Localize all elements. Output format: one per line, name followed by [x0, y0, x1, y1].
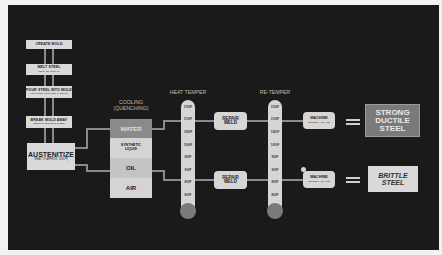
flow-upper-3 [86, 128, 110, 130]
re-temper-tick: 800F [268, 193, 282, 197]
result-strong-ductile-steel: STRONG DUCTILE STEEL [365, 104, 420, 137]
equals-upper-bottom [346, 123, 360, 125]
re-temper-tick: 1000F [268, 143, 282, 147]
re-temper-tick: 1050F [268, 130, 282, 134]
cooling-water: WATER [110, 119, 152, 138]
heat-temper-tick: 1000F [181, 143, 195, 147]
re-temper-tick: 950F [268, 155, 282, 159]
cooling-oil: OIL [110, 158, 152, 178]
re-temper-tick: 900F [268, 168, 282, 172]
heat-temper-tick: 1100F [181, 117, 195, 121]
equals-upper-top [346, 119, 360, 121]
re-temper-title: RE-TEMPER [252, 90, 298, 96]
heat-temper-tick: 1150F [181, 105, 195, 109]
result-brittle-steel: BRITTLE STEEL [368, 166, 418, 192]
heat-temper-tick: 900F [181, 168, 195, 172]
equals-lower-bottom [346, 181, 360, 183]
flow-upper-2 [86, 128, 88, 149]
cooling-air: AIR [110, 178, 152, 198]
re-temper-bulb [267, 203, 283, 219]
equals-lower-top [346, 177, 360, 179]
step-pour-steel: POUR STEEL INTO MOLD (LET COOL INTO META… [26, 86, 72, 98]
re-temper-thermometer: 1150F 1100F 1050F 1000F 950F 900F 850F 8… [268, 100, 282, 208]
heat-temper-tick: 800F [181, 193, 195, 197]
re-temper-tick: 850F [268, 180, 282, 184]
heat-temper-thermometer: 1150F 1100F 1050F 1000F 950F 900F 850F 8… [181, 100, 195, 208]
cooling-synthetic-liquid: SYNTHETIC LIQUID [110, 138, 152, 158]
heat-temper-tick: 1050F [181, 130, 195, 134]
heat-temper-title: HEAT TEMPER [165, 90, 211, 96]
step-austenitize: AUSTENITIZE (HEAT TO APPROX. 1650°F) [27, 143, 75, 170]
heat-temper-bulb [180, 203, 196, 219]
cooling-title: COOLING (QUENCHING) [108, 100, 154, 111]
flow-lower-3 [86, 170, 110, 172]
heat-temper-tick: 850F [181, 180, 195, 184]
re-temper-tick: 1100F [268, 117, 282, 121]
step-break-mold: BREAK MOLD AWAY REMOVE SPRUE & RISER [26, 116, 72, 128]
lock-icon [301, 167, 306, 172]
step-melt-steel: MELT STEEL (NEW OR SCRAP) [26, 64, 72, 75]
step-create-mold: CREATE MOLD [26, 40, 72, 49]
heat-temper-tick: 950F [181, 155, 195, 159]
re-temper-tick: 1150F [268, 105, 282, 109]
machine-lower: MACHINE (SMOOTH / SHAPE) [303, 171, 335, 188]
machine-upper: MACHINE (SMOOTH / SHAPE) [303, 112, 335, 129]
repair-weld-lower: REPAIR WELD [214, 171, 247, 189]
repair-weld-upper: REPAIR WELD [214, 112, 247, 130]
